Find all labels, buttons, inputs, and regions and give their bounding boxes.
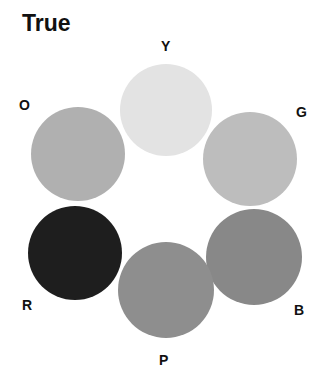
circle-label-y: Y: [161, 38, 170, 54]
circle-b: [206, 209, 302, 305]
circle-label-g: G: [296, 104, 307, 120]
circle-g: [203, 112, 297, 206]
circle-label-o: O: [19, 97, 30, 113]
circle-r: [28, 206, 122, 300]
diagram-title: True: [22, 10, 71, 37]
circle-p: [118, 242, 214, 338]
circle-label-b: B: [294, 302, 304, 318]
circle-y: [120, 64, 212, 156]
circle-label-p: P: [159, 352, 168, 368]
circle-o: [31, 107, 125, 201]
circle-label-r: R: [22, 297, 32, 313]
